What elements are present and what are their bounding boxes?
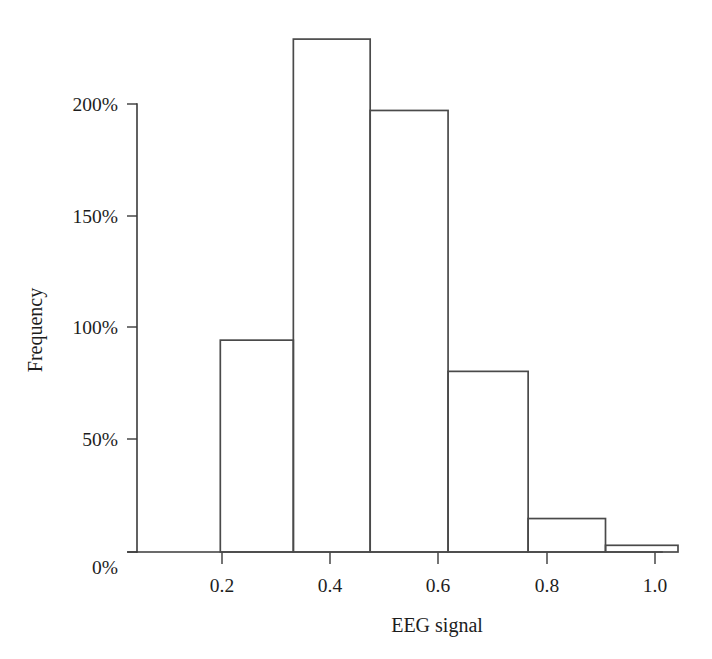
x-tick-label-0-8: 0.8	[535, 575, 559, 596]
x-axis-title: EEG signal	[391, 614, 483, 637]
y-tick-label-150: 150%	[73, 206, 119, 227]
y-axis-title: Frequency	[24, 288, 47, 372]
y-tick-label-50: 50%	[82, 429, 118, 450]
histogram-svg: 200% 150% 100% 50% 0% 0.2 0.4 0.6 0.8 1.…	[0, 0, 712, 659]
x-tick-label-0-2: 0.2	[210, 575, 234, 596]
histogram-figure: 200% 150% 100% 50% 0% 0.2 0.4 0.6 0.8 1.…	[0, 0, 712, 659]
y-tick-label-200: 200%	[73, 94, 119, 115]
x-tick-label-1-0: 1.0	[643, 575, 667, 596]
y-tick-label-0: 0%	[92, 557, 118, 578]
x-tick-label-0-6: 0.6	[426, 575, 451, 596]
y-tick-label-100: 100%	[73, 317, 119, 338]
x-tick-label-0-4: 0.4	[318, 575, 343, 596]
